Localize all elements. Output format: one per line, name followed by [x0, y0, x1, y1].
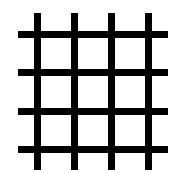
- horizontal-line-2: [18, 69, 168, 76]
- horizontal-line-1: [18, 31, 168, 38]
- horizontal-line-4: [18, 146, 168, 153]
- hash-grid-figure: [0, 0, 170, 173]
- horizontal-line-3: [18, 108, 168, 115]
